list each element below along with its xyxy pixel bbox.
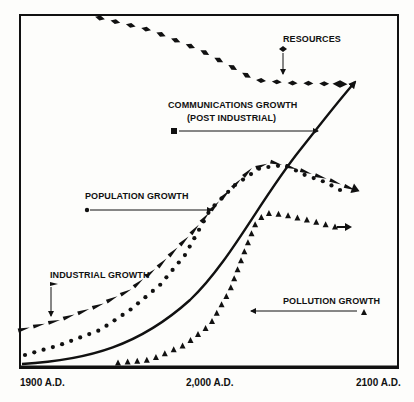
communications-annotation: COMMUNICATIONS GROWTH (POST INDUSTRIAL): [168, 100, 318, 134]
dot-marker: [170, 268, 174, 272]
diamond-marker: [319, 81, 329, 86]
diamond-marker: [332, 80, 347, 88]
resources-series: [95, 14, 348, 87]
dot-marker: [197, 228, 201, 232]
dot-marker: [69, 339, 73, 343]
communications-series: [22, 82, 355, 364]
square-marker-icon: [171, 128, 177, 134]
pollution-series: [115, 210, 352, 366]
diamond-marker: [256, 78, 266, 84]
dash-marker: [63, 313, 76, 321]
dot-marker: [78, 335, 82, 339]
diamond-marker: [170, 36, 181, 44]
dot-marker: [321, 179, 325, 183]
triangle-marker: [171, 346, 177, 352]
dot-marker: [188, 245, 192, 249]
triangle-marker: [276, 211, 282, 217]
dot-marker: [233, 183, 237, 187]
triangle-marker-icon: [361, 309, 367, 315]
dash-marker: [92, 302, 105, 310]
dash-marker: [315, 173, 328, 181]
triangle-marker: [115, 360, 121, 366]
diamond-marker: [185, 42, 196, 50]
triangle-marker: [195, 331, 201, 337]
triangle-marker: [125, 359, 131, 365]
population-annotation: POPULATION GROWTH: [85, 191, 212, 212]
dot-marker: [329, 183, 333, 187]
dot-marker: [112, 318, 116, 322]
dash-marker: [168, 246, 179, 257]
triangle-marker: [209, 318, 215, 324]
dot-marker: [312, 176, 316, 180]
dot-marker: [136, 301, 140, 305]
dash-marker: [48, 318, 61, 325]
dot-marker: [120, 313, 124, 317]
dot-marker-icon: [85, 208, 89, 212]
communications-sublabel: (POST INDUSTRIAL): [187, 113, 276, 123]
dash-marker: [106, 294, 119, 303]
triangle-marker: [162, 350, 168, 356]
resources-annotation: RESOURCES: [279, 34, 341, 74]
triangle-marker: [223, 293, 229, 299]
dash-marker: [157, 257, 168, 268]
dot-marker: [302, 173, 306, 177]
dot-marker: [202, 219, 206, 223]
triangle-marker: [235, 266, 241, 272]
dot-marker: [266, 165, 270, 169]
diamond-marker: [227, 63, 238, 72]
dot-marker: [249, 172, 253, 176]
diamond-marker: [288, 80, 298, 85]
triangle-marker: [249, 230, 255, 236]
triangle-marker: [238, 257, 244, 263]
dash-marker: [231, 178, 242, 189]
diamond-marker: [272, 79, 282, 85]
dot-marker: [212, 203, 216, 207]
diamond-marker: [303, 81, 313, 86]
x-tick-2100: 2100 A.D.: [356, 377, 401, 388]
dot-marker: [183, 253, 187, 257]
dot-marker: [206, 211, 210, 215]
pollution-label: POLLUTION GROWTH: [283, 296, 380, 306]
dot-marker: [241, 177, 245, 181]
triangle-marker: [228, 284, 234, 290]
triangle-marker: [180, 343, 186, 349]
triangle-marker: [285, 212, 291, 218]
dot-marker: [192, 236, 196, 240]
dot-marker: [143, 295, 147, 299]
triangle-marker: [294, 214, 300, 220]
dot-marker: [32, 350, 36, 354]
dot-marker: [164, 275, 168, 279]
triangle-marker: [134, 358, 140, 364]
triangle-marker: [304, 217, 310, 223]
dot-marker: [151, 289, 155, 293]
diamond-marker: [141, 25, 152, 32]
arrowhead: [345, 223, 352, 231]
triangle-marker: [323, 221, 329, 227]
dot-marker: [60, 342, 64, 346]
diamond-marker: [199, 48, 210, 57]
dot-marker: [276, 164, 280, 168]
dot-marker: [96, 329, 100, 333]
dot-marker: [104, 324, 108, 328]
arrowhead: [350, 184, 361, 196]
diamond-marker: [110, 18, 121, 25]
resources-label: RESOURCES: [283, 34, 341, 44]
growth-chart: RESOURCES COMMUNICATIONS GROWTH (POST IN…: [0, 0, 414, 402]
dot-marker: [285, 164, 289, 168]
industrial-label: INDUSTRIAL GROWTH: [50, 270, 150, 280]
dash-marker: [33, 322, 46, 329]
triangle-marker: [203, 325, 209, 331]
dot-marker: [257, 167, 261, 171]
triangle-marker: [231, 275, 237, 281]
diamond-marker: [155, 30, 166, 38]
triangle-marker: [252, 221, 258, 227]
diamond-marker: [125, 22, 136, 29]
triangle-marker: [313, 219, 319, 225]
triangle-marker: [241, 248, 247, 254]
dot-marker: [51, 345, 55, 349]
dot-marker: [226, 190, 230, 194]
dot-marker: [338, 188, 342, 192]
dot-marker: [128, 307, 132, 311]
triangle-marker: [153, 354, 159, 360]
dot-marker: [294, 168, 298, 172]
